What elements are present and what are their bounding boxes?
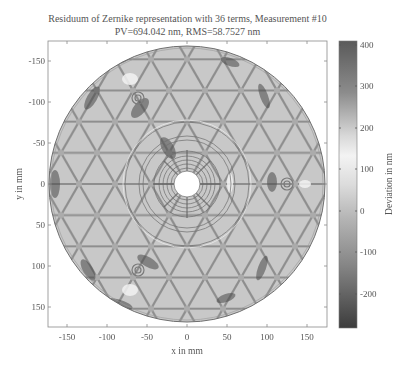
colorbar-tick-label: -200 (360, 289, 377, 299)
x-tick-label: -150 (59, 332, 76, 342)
y-tick-label: 100 (32, 261, 46, 271)
x-tick-label: 50 (223, 332, 233, 342)
y-tick-labels: -150 -100 -50 0 50 100 150 (29, 56, 46, 312)
colorbar-tick-label: 300 (360, 81, 374, 91)
y-tick-label: -150 (29, 56, 46, 66)
y-tick-label: 150 (32, 302, 46, 312)
y-tick-label: -100 (29, 97, 46, 107)
colorbar-tick-label: 0 (360, 206, 365, 216)
x-tick-label: 100 (260, 332, 274, 342)
y-tick-label: 50 (36, 220, 46, 230)
colorbar-tick-label: -100 (360, 247, 377, 257)
x-tick-label: -100 (99, 332, 116, 342)
colorbar (339, 41, 357, 328)
x-axis-label: x in mm (171, 346, 203, 356)
y-tick-label: 0 (41, 179, 46, 189)
chart-canvas: -150 -100 -50 0 50 100 150 x in mm -150 … (0, 0, 405, 372)
x-tick-label: 0 (185, 332, 190, 342)
x-tick-labels: -150 -100 -50 0 50 100 150 (59, 332, 315, 342)
y-tick-label: -50 (33, 138, 45, 148)
colorbar-label: Deviation in nm (384, 153, 394, 215)
colorbar-tick-labels: 400 300 200 100 0 -100 -200 (360, 40, 377, 299)
center-hole (174, 171, 200, 197)
y-axis-label: y in mm (14, 168, 24, 200)
colorbar-tick-label: 400 (360, 40, 374, 50)
x-tick-label: 150 (300, 332, 314, 342)
colorbar-tick-label: 100 (360, 164, 374, 174)
colorbar-tick-label: 200 (360, 123, 374, 133)
x-tick-label: -50 (141, 332, 153, 342)
